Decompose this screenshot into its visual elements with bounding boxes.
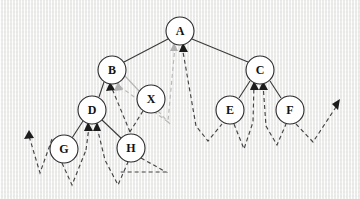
node-d[interactable]: D — [78, 96, 106, 124]
edge-d-g — [72, 121, 83, 138]
traversal-a-down-light — [168, 46, 175, 121]
node-x-label: X — [147, 92, 156, 106]
edge-b-x — [125, 76, 140, 92]
arrowhead-left-margin — [24, 130, 34, 139]
node-e-label: E — [226, 103, 234, 117]
tree-edges — [72, 39, 281, 139]
edge-c-f — [270, 81, 281, 98]
node-a[interactable]: A — [166, 17, 194, 45]
edge-a-c — [192, 39, 248, 62]
node-c[interactable]: C — [246, 56, 274, 84]
traversal-into-b-left — [111, 86, 130, 132]
node-h-label: H — [126, 141, 136, 155]
node-g[interactable]: G — [50, 135, 78, 163]
edge-b-d — [99, 82, 104, 97]
arrowheads — [24, 43, 340, 139]
node-f[interactable]: F — [276, 96, 304, 124]
tree-diagram: A B C X D E F — [0, 0, 360, 199]
node-d-label: D — [88, 103, 97, 117]
edge-c-e — [239, 81, 250, 98]
node-b[interactable]: B — [98, 56, 126, 84]
traversal-left-margin — [29, 136, 52, 173]
node-c-label: C — [256, 63, 265, 77]
node-a-label: A — [176, 24, 185, 38]
node-x[interactable]: X — [137, 85, 165, 113]
traversal-a-to-e — [182, 46, 222, 141]
node-f-label: F — [286, 103, 293, 117]
arrowhead-right-margin — [332, 99, 340, 110]
edge-d-h — [102, 120, 122, 139]
node-e[interactable]: E — [216, 96, 244, 124]
edge-a-b — [124, 39, 168, 62]
node-b-label: B — [108, 63, 116, 77]
node-g-label: G — [59, 142, 68, 156]
node-h[interactable]: H — [117, 134, 145, 162]
diagram-canvas: A B C X D E F — [0, 0, 360, 199]
